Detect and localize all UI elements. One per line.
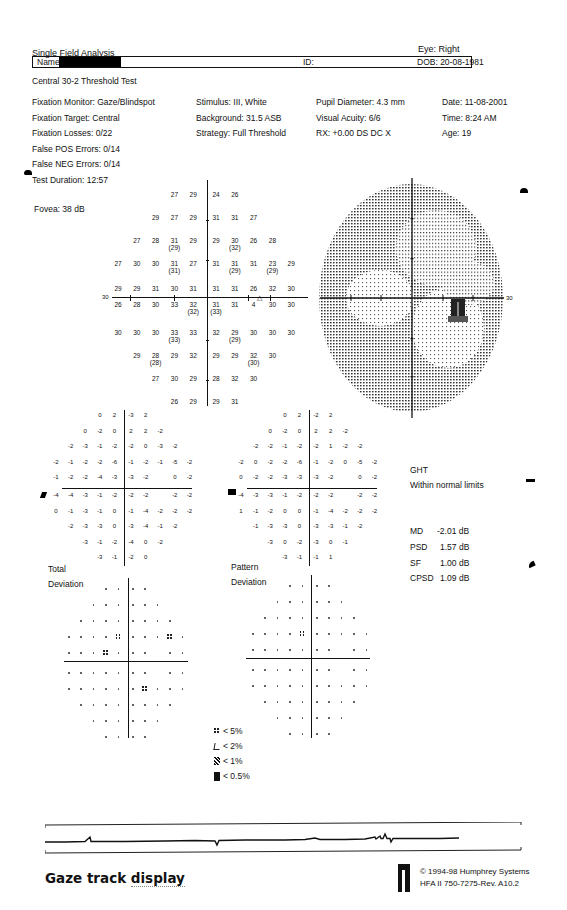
normal-point: [353, 701, 355, 703]
total-deviation-value: -1: [94, 492, 106, 498]
total-deviation-value: -2: [94, 459, 106, 465]
normal-point: [316, 717, 318, 719]
total-deviation-value: -4: [94, 474, 106, 480]
pattern-deviation-value: -2: [325, 459, 337, 465]
normal-point: [264, 685, 266, 687]
pattern-deviation-value: 0: [293, 508, 305, 514]
legend-p5-label: < 5%: [223, 727, 243, 736]
normal-point: [328, 733, 330, 735]
legend-p05-label: < 0.5%: [223, 772, 250, 781]
normal-point: [132, 736, 134, 738]
threshold-value: 30: [128, 261, 146, 268]
threshold-db: 29: [114, 285, 121, 292]
threshold-value: 30: [263, 302, 281, 309]
normal-point: [132, 672, 134, 674]
total-deviation-value: -2: [108, 539, 120, 545]
threshold-value: 26: [165, 399, 183, 406]
pattern-deviation-value: -2: [279, 428, 291, 434]
p5-symbol-icon: [103, 650, 109, 656]
threshold-value: 31: [226, 302, 244, 309]
normal-point: [328, 601, 330, 603]
threshold-db: 28: [212, 375, 219, 382]
threshold-db: 26: [250, 285, 257, 292]
p05-symbol-icon: [214, 772, 220, 781]
normal-point: [105, 636, 107, 638]
threshold-db: 29: [190, 214, 197, 221]
total-deviation-value: -3: [94, 554, 106, 560]
normal-point: [328, 617, 330, 619]
normal-point: [316, 633, 318, 635]
normal-point: [157, 688, 159, 690]
total-deviation-value: -4: [140, 523, 152, 529]
threshold-value: 29(29): [226, 330, 244, 343]
normal-point: [118, 672, 120, 674]
normal-point: [289, 633, 291, 635]
sf-value: 1.00 dB: [440, 559, 469, 568]
threshold-value: 26: [245, 286, 263, 293]
threshold-value: 31: [147, 286, 165, 293]
total-deviation-value: -6: [108, 459, 120, 465]
pattern-deviation-value: -3: [264, 492, 276, 498]
legend-p05: < 0.5%: [214, 772, 250, 781]
pattern-deviation-value: -1: [250, 508, 262, 514]
pattern-deviation-value: 2: [310, 428, 322, 434]
threshold-db: 32: [190, 301, 197, 308]
total-deviation-value: -3: [154, 443, 166, 449]
normal-point: [289, 669, 291, 671]
total-deviation-value: -2: [169, 523, 181, 529]
threshold-value: 33: [184, 330, 202, 337]
threshold-value: 24: [207, 192, 225, 199]
threshold-value: 26: [226, 192, 244, 199]
normal-point: [169, 688, 171, 690]
normal-point: [302, 685, 304, 687]
pattern-deviation-value: -2: [264, 443, 276, 449]
threshold-value: 29: [184, 376, 202, 383]
normal-point: [132, 704, 134, 706]
normal-point: [144, 588, 146, 590]
threshold-value: 29: [184, 399, 202, 406]
normal-point: [118, 736, 120, 738]
gaze-track-trace: [45, 822, 523, 856]
normal-point: [144, 720, 146, 722]
pattern-deviation-value: -3: [264, 523, 276, 529]
normal-point: [68, 672, 70, 674]
threshold-value: 27: [109, 261, 127, 268]
threshold-db: 26: [250, 237, 257, 244]
threshold-value: 28: [263, 238, 281, 245]
total-deviation-value: -1: [108, 554, 120, 560]
threshold-value: 30: [147, 302, 165, 309]
pattern-deviation-value: -3: [310, 523, 322, 529]
normal-point: [93, 688, 95, 690]
caption-part-a: Gaze track: [45, 870, 131, 886]
pattern-deviation-value: 0: [250, 459, 262, 465]
total-deviation-value: -3: [79, 492, 91, 498]
total-deviation-value: -2: [50, 459, 62, 465]
threshold-db: 33: [171, 329, 178, 336]
threshold-value: 31: [226, 215, 244, 222]
normal-point: [302, 585, 304, 587]
normal-point: [316, 685, 318, 687]
normal-point: [182, 652, 184, 654]
normal-point: [366, 669, 368, 671]
pattern-deviation-value: -2: [368, 492, 380, 498]
normal-point: [93, 604, 95, 606]
threshold-db: 30: [288, 301, 295, 308]
normal-point: [264, 669, 266, 671]
greyscale-map: [318, 178, 523, 420]
total-deviation-value: 2: [140, 412, 152, 418]
pattern-deviation-value: -6: [293, 459, 305, 465]
normal-point: [169, 652, 171, 654]
total-deviation-value: -2: [65, 474, 77, 480]
threshold-db: 26: [231, 191, 238, 198]
threshold-value: 31: [226, 286, 244, 293]
pattern-deviation-value: -1: [250, 523, 262, 529]
normal-point: [366, 649, 368, 651]
pattern-deviation-value: -2: [354, 508, 366, 514]
pattern-deviation-value: -2: [339, 428, 351, 434]
pattern-deviation-value: -3: [279, 554, 291, 560]
threshold-db: 29: [171, 352, 178, 359]
threshold-value: 29: [207, 399, 225, 406]
normal-point: [132, 604, 134, 606]
pattern-deviation-value: 2: [293, 412, 305, 418]
total-deviation-value: -3: [94, 523, 106, 529]
